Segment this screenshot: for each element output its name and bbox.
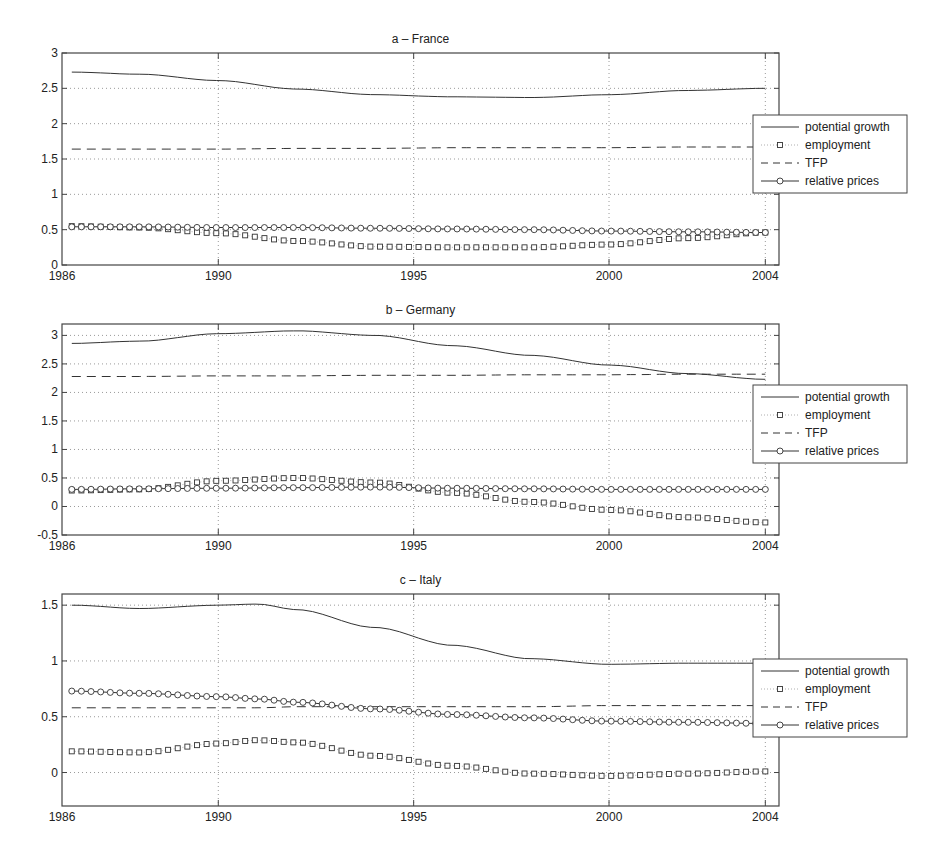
legend-label: TFP [805,426,828,440]
legend: potential growthemploymentTFPrelative pr… [753,115,907,193]
y-tick-label: 1 [51,187,58,201]
chart-title: b – Germany [386,303,455,317]
series-relative-prices [69,484,769,492]
y-tick-label: 1 [51,654,58,668]
legend-label: potential growth [805,390,890,404]
legend-label: relative prices [805,444,879,458]
x-tick-label: 1986 [49,539,76,553]
chart-germany: b – Germany-0.500.511.522.53198619901995… [0,285,949,570]
legend-label: TFP [805,156,828,170]
y-tick-label: 0 [51,499,58,513]
legend-label: potential growth [805,120,890,134]
y-tick-label: 1 [51,442,58,456]
x-tick-label: 2004 [752,539,779,553]
y-tick-label: 1.5 [41,598,58,612]
x-tick-label: 1990 [205,539,232,553]
x-tick-label: 1990 [205,810,232,824]
legend-label: employment [805,138,871,152]
legend-label: TFP [805,700,828,714]
x-tick-label: 1990 [205,269,232,283]
series-TFP [72,706,766,708]
series-potential-growth [72,72,766,97]
series-potential-growth [72,604,766,664]
series-relative-prices [69,688,769,726]
x-tick-label: 1986 [49,269,76,283]
y-tick-label: 2 [51,117,58,131]
y-tick-label: 0.5 [41,223,58,237]
y-tick-label: 0.5 [41,471,58,485]
y-tick-label: 3 [51,328,58,342]
plot-area [62,324,779,535]
y-tick-label: 0 [51,766,58,780]
chart-france: a – France00.511.522.5319861990199520002… [0,0,949,285]
series-TFP [72,374,766,376]
legend-label: employment [805,408,871,422]
chart-panel-germany: b – Germany-0.500.511.522.53198619901995… [0,285,949,570]
legend-label: relative prices [805,718,879,732]
y-tick-label: 3 [51,46,58,60]
series-TFP [72,147,766,149]
y-tick-label: 2.5 [41,81,58,95]
x-tick-label: 1995 [400,269,427,283]
y-tick-label: 0.5 [41,710,58,724]
legend: potential growthemploymentTFPrelative pr… [753,385,907,463]
x-tick-label: 2000 [596,539,623,553]
x-tick-label: 2004 [752,269,779,283]
legend: potential growthemploymentTFPrelative pr… [753,659,907,737]
chart-italy: c – Italy00.511.519861990199520002004pot… [0,570,949,853]
x-tick-label: 2004 [752,810,779,824]
chart-panel-italy: c – Italy00.511.519861990199520002004pot… [0,570,949,853]
legend-label: relative prices [805,174,879,188]
x-tick-label: 1995 [400,810,427,824]
legend-label: employment [805,682,871,696]
y-tick-label: 2.5 [41,357,58,371]
chart-title: c – Italy [400,573,441,587]
legend-label: potential growth [805,664,890,678]
chart-panel-france: a – France00.511.522.5319861990199520002… [0,0,949,285]
x-tick-label: 2000 [596,810,623,824]
y-tick-label: 1.5 [41,152,58,166]
series-employment [69,475,768,524]
grid-lines [62,324,779,535]
series-potential-growth [72,331,766,379]
y-tick-label: 1.5 [41,414,58,428]
x-tick-label: 2000 [596,269,623,283]
x-tick-label: 1986 [49,810,76,824]
y-tick-label: 2 [51,385,58,399]
x-tick-label: 1995 [400,539,427,553]
chart-title: a – France [392,32,450,46]
